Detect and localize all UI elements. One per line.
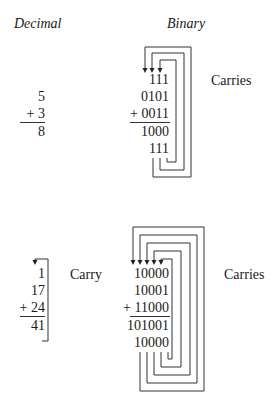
binary-addend-1: 0101 xyxy=(141,89,169,105)
decimal-addend-1: 5 xyxy=(38,89,45,105)
decimal-addend-2: + 24 xyxy=(20,300,45,316)
binary-addend-2: + 0011 xyxy=(130,106,169,122)
binary-sum: 101001 xyxy=(127,318,169,334)
binary-header: Binary xyxy=(167,16,205,32)
decimal-sum: 8 xyxy=(38,124,45,140)
binary-sum: 1000 xyxy=(141,124,169,140)
decimal-carry-row: 1 xyxy=(38,266,45,282)
binary-carry-out-row: 111 xyxy=(149,141,169,157)
carries-label-1: Carries xyxy=(211,73,251,89)
binary-addend-2: + 11000 xyxy=(123,300,169,316)
decimal-header: Decimal xyxy=(14,16,61,32)
binary-addend-1: 10001 xyxy=(134,283,169,299)
decimal-addend-1: 17 xyxy=(31,283,45,299)
carry-label: Carry xyxy=(70,267,102,283)
carries-label-2: Carries xyxy=(224,267,264,283)
binary-carries-row: 111 xyxy=(149,72,169,88)
binary-carries-row: 10000 xyxy=(134,266,169,282)
binary-carry-out-row: 10000 xyxy=(134,335,169,351)
decimal-addend-2: + 3 xyxy=(27,106,45,122)
decimal-sum: 41 xyxy=(31,318,45,334)
